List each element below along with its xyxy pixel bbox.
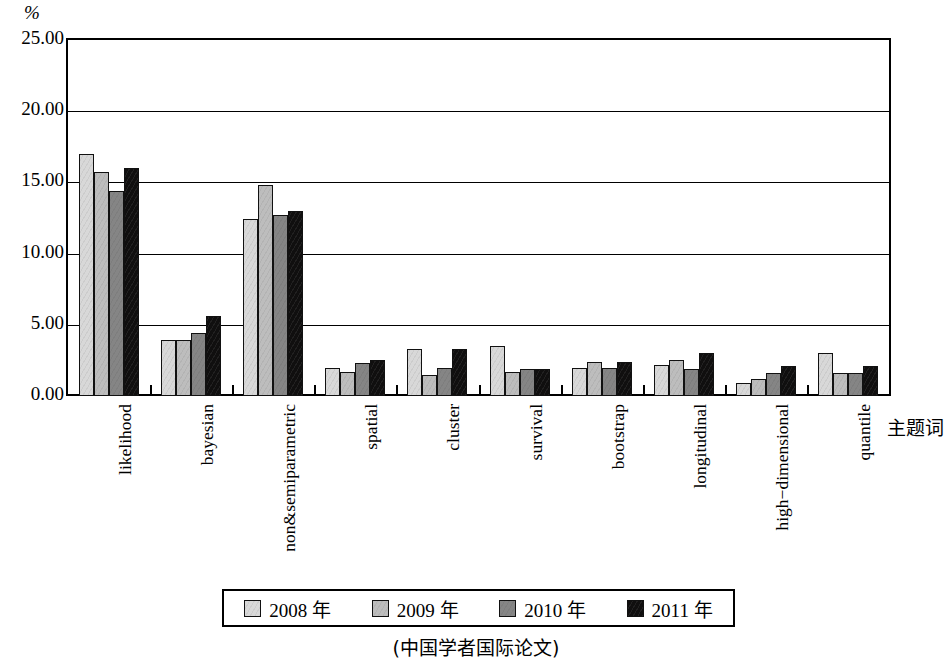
x-axis-category-label: quantile — [854, 404, 875, 460]
bar — [161, 340, 176, 396]
bar — [587, 362, 602, 396]
bar — [340, 372, 355, 396]
bar — [370, 360, 385, 396]
legend-item-label: 2009 年 — [397, 595, 459, 622]
legend-item-label: 2011 年 — [652, 595, 713, 622]
bar — [355, 363, 370, 396]
x-axis-category-label: non&semiparametric — [279, 404, 300, 552]
bar — [437, 368, 452, 396]
bar — [833, 373, 848, 396]
bar — [109, 191, 124, 396]
legend-item-label: 2010 年 — [524, 595, 586, 622]
bar — [766, 373, 781, 396]
bar — [191, 333, 206, 396]
x-axis-category-label: spatial — [361, 404, 382, 450]
swatch-2011-icon — [627, 600, 644, 617]
bar — [617, 362, 632, 396]
bar — [325, 368, 340, 396]
y-axis-tick-label: 0.00 — [2, 383, 64, 405]
legend-item: 2011 年 — [627, 595, 713, 622]
bar — [781, 366, 796, 396]
bar — [751, 379, 766, 396]
bar — [288, 211, 303, 396]
x-axis-category-label: high−dimensional — [772, 404, 793, 531]
bar — [520, 369, 535, 396]
bar — [124, 168, 139, 396]
bar-chart-figure: % 0.005.0010.0015.0020.0025.00 likelihoo… — [0, 0, 952, 670]
bar — [818, 353, 833, 396]
bar — [654, 365, 669, 396]
bar — [505, 372, 520, 396]
bar — [407, 349, 422, 396]
bar — [206, 316, 221, 396]
x-axis-category-label: survival — [526, 404, 547, 460]
bar — [848, 373, 863, 396]
legend-item-label: 2008 年 — [269, 595, 331, 622]
bar — [176, 340, 191, 396]
bar — [572, 368, 587, 396]
bar — [79, 154, 94, 396]
bar — [452, 349, 467, 396]
y-axis-tick-label: 20.00 — [2, 98, 64, 120]
bar — [863, 366, 878, 396]
legend: 2008 年2009 年2010 年2011 年 — [222, 589, 735, 627]
bar — [422, 375, 437, 396]
y-axis-tick-label: 5.00 — [2, 312, 64, 334]
x-axis-category-label: likelihood — [115, 404, 136, 475]
bar — [490, 346, 505, 396]
y-axis-tick-label: 15.00 — [2, 169, 64, 191]
bar — [535, 369, 550, 396]
legend-item: 2008 年 — [244, 595, 331, 622]
legend-item: 2009 年 — [372, 595, 459, 622]
x-axis-category-label: bayesian — [197, 404, 218, 465]
bar — [602, 368, 617, 396]
bar — [94, 172, 109, 396]
bar — [669, 360, 684, 396]
bar — [699, 353, 714, 396]
x-axis-category-label: longitudinal — [690, 404, 711, 489]
legend-item: 2010 年 — [499, 595, 586, 622]
swatch-2010-icon — [499, 600, 516, 617]
bar — [684, 369, 699, 396]
bar — [243, 219, 258, 396]
bar — [258, 185, 273, 396]
x-axis-title: 主题词 — [887, 413, 944, 440]
y-axis-tick-labels: 0.005.0010.0015.0020.0025.00 — [0, 38, 64, 396]
x-axis-category-label: cluster — [443, 404, 464, 451]
swatch-2008-icon — [244, 600, 261, 617]
swatch-2009-icon — [372, 600, 389, 617]
x-axis-category-label: bootstrap — [608, 404, 629, 469]
y-axis-tick-label: 25.00 — [2, 27, 64, 49]
bar — [273, 215, 288, 396]
bars-layer — [68, 40, 889, 396]
figure-caption: (中国学者国际论文) — [0, 633, 952, 660]
bar — [736, 383, 751, 396]
y-axis-tick-label: 10.00 — [2, 241, 64, 263]
y-axis-unit-label: % — [24, 2, 40, 24]
